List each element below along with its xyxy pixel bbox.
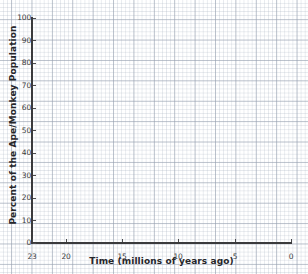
y-axis-title: Percent of the Ape/Monkey Population <box>8 18 18 232</box>
x-axis-title: Time (millions of years ago) <box>32 256 291 266</box>
chart-figure: 0102030405060708090100 2320151050 Time (… <box>0 0 308 274</box>
data-series-layer <box>0 0 308 274</box>
